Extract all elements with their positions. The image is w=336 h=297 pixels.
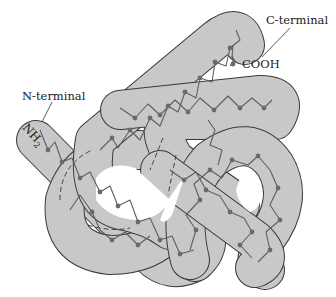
protein-tertiary-structure-diagram: C-terminal COOH N-terminal NH2	[0, 0, 336, 297]
n-terminal-label: N-terminal	[22, 89, 86, 103]
c-terminal-label: C-terminal	[266, 13, 328, 27]
cooh-label: COOH	[242, 57, 280, 71]
n-terminal-leader-line	[42, 102, 52, 122]
c-terminal-leader-line	[262, 28, 290, 57]
